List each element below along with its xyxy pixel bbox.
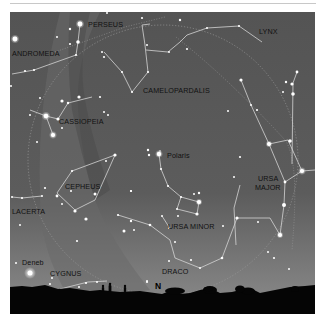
star <box>273 257 275 259</box>
star <box>235 216 238 219</box>
star <box>44 114 49 119</box>
star <box>76 40 80 44</box>
star <box>296 71 299 74</box>
star <box>29 114 31 116</box>
star <box>147 71 149 73</box>
star <box>11 196 13 198</box>
star <box>285 81 287 83</box>
star <box>291 92 295 96</box>
star <box>300 169 304 173</box>
star <box>121 71 123 73</box>
star <box>76 240 78 242</box>
star <box>123 230 126 233</box>
label-ursa-major-1: URSA <box>258 174 278 183</box>
star <box>267 251 269 253</box>
star <box>199 267 201 269</box>
star <box>177 215 179 217</box>
star <box>159 150 161 152</box>
star <box>222 225 224 227</box>
star <box>107 114 109 116</box>
label-cassiopeia: CASSIOPEIA <box>59 117 104 126</box>
star <box>197 200 201 204</box>
star <box>131 91 133 93</box>
star <box>15 262 17 264</box>
star <box>193 193 195 195</box>
star <box>113 153 116 156</box>
star <box>73 209 76 212</box>
star <box>221 257 224 260</box>
star <box>51 133 55 137</box>
star <box>78 286 80 288</box>
star <box>190 259 192 261</box>
star <box>96 281 98 283</box>
compass-north-label: N <box>155 281 161 291</box>
star <box>195 212 198 215</box>
star <box>117 214 119 216</box>
label-perseus: PERSEUS <box>88 20 123 29</box>
star <box>186 48 188 50</box>
star <box>24 70 26 72</box>
star <box>278 233 282 237</box>
star <box>69 43 71 45</box>
star <box>141 17 143 19</box>
star <box>227 110 229 112</box>
label-andromeda: ANDROMEDA <box>12 49 60 58</box>
top-border-line <box>10 3 316 4</box>
star <box>239 78 242 81</box>
star <box>39 97 41 99</box>
star <box>133 229 135 231</box>
star <box>198 192 200 194</box>
star <box>71 170 73 172</box>
star-chart: PERSEUS ANDROMEDA LYNX CAMELOPARDALIS CA… <box>10 12 315 314</box>
star <box>290 82 293 85</box>
label-cepheus: CEPHEUS <box>65 182 101 191</box>
star <box>176 208 178 210</box>
star <box>282 203 286 207</box>
star <box>103 56 105 58</box>
star <box>282 91 284 93</box>
polaris-star <box>157 152 161 156</box>
star <box>33 69 35 71</box>
star <box>284 181 287 184</box>
star <box>267 142 271 146</box>
star <box>69 28 71 30</box>
star <box>288 268 290 270</box>
star <box>130 220 132 222</box>
star <box>19 224 21 226</box>
star <box>239 156 241 158</box>
star <box>10 85 12 87</box>
star <box>13 37 18 42</box>
star <box>85 282 87 284</box>
star <box>168 51 170 53</box>
deneb-star <box>28 271 33 276</box>
star <box>257 221 259 223</box>
label-draco: DRACO <box>162 267 189 276</box>
star <box>101 51 103 53</box>
star <box>233 176 235 178</box>
star <box>148 154 150 156</box>
star <box>146 44 148 46</box>
star <box>206 27 208 29</box>
star <box>288 139 292 143</box>
star <box>106 12 108 14</box>
label-polaris: Polaris <box>167 151 190 160</box>
star <box>56 36 58 38</box>
star <box>56 195 59 198</box>
star <box>250 104 252 106</box>
star <box>67 102 69 104</box>
star <box>174 241 176 243</box>
star <box>36 141 38 143</box>
star <box>77 95 80 98</box>
star <box>21 197 23 199</box>
star <box>44 187 46 189</box>
star <box>103 111 105 113</box>
star <box>105 160 107 162</box>
star <box>61 203 63 205</box>
star <box>99 96 101 98</box>
star <box>61 127 63 129</box>
star <box>94 193 97 196</box>
star <box>147 149 149 151</box>
star <box>168 260 170 262</box>
star <box>49 283 51 285</box>
label-lacerta: LACERTA <box>12 207 45 216</box>
